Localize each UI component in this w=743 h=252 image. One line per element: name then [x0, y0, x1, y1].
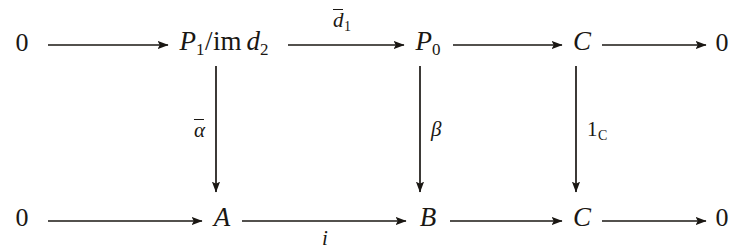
- p0-subscript: 0: [432, 40, 441, 59]
- node-bottom-zero-left: 0: [16, 205, 29, 231]
- slash-glyph: /: [205, 26, 213, 56]
- c-subscript: C: [598, 128, 607, 143]
- node-top-c: C: [573, 28, 591, 55]
- i-glyph: i: [322, 226, 328, 250]
- commutative-diagram: 0 P1/imd2 P0 C 0 0 A B C 0 d1 α β 1C i: [0, 0, 743, 252]
- d1-subscript: 1: [344, 19, 351, 34]
- c-letter: C: [573, 202, 591, 232]
- overbar-stroke: [194, 119, 205, 121]
- one-glyph: 1: [587, 117, 598, 141]
- node-bottom-zero-right: 0: [716, 205, 729, 231]
- zero-glyph: 0: [716, 203, 729, 232]
- node-top-quotient: P1/imd2: [179, 28, 268, 58]
- d-letter: d: [333, 8, 344, 32]
- label-alpha-bar: α: [194, 120, 205, 141]
- label-identity-c: 1C: [587, 119, 607, 143]
- zero-glyph: 0: [16, 28, 29, 57]
- arrow-layer: [0, 0, 743, 252]
- node-top-zero-left: 0: [16, 30, 29, 56]
- p1-subscript: 1: [196, 40, 205, 59]
- im-operator: im: [213, 26, 242, 56]
- c-letter: C: [573, 26, 591, 56]
- d-letter: d: [247, 26, 261, 56]
- node-bottom-c: C: [573, 204, 591, 231]
- node-bottom-b: B: [420, 204, 437, 231]
- beta-glyph: β: [431, 117, 441, 141]
- b-letter: B: [420, 202, 437, 232]
- node-bottom-a: A: [214, 204, 231, 231]
- node-top-p0: P0: [416, 28, 441, 58]
- p-letter: P: [179, 26, 196, 56]
- label-inclusion-i: i: [322, 228, 328, 249]
- label-beta: β: [431, 119, 441, 140]
- node-top-zero-right: 0: [716, 30, 729, 56]
- p-letter: P: [416, 26, 433, 56]
- overbar-group: α: [194, 120, 205, 141]
- zero-glyph: 0: [716, 28, 729, 57]
- overbar-stroke: [333, 9, 343, 11]
- d2-subscript: 2: [260, 40, 269, 59]
- zero-glyph: 0: [16, 203, 29, 232]
- alpha-glyph: α: [194, 118, 205, 142]
- overbar-group: d: [333, 10, 344, 31]
- label-d1-bar: d1: [333, 10, 351, 34]
- a-letter: A: [214, 202, 231, 232]
